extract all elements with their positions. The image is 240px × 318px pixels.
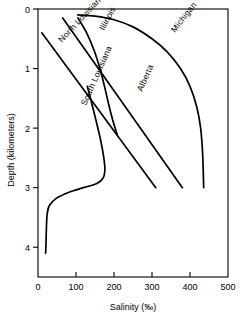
salinity-depth-figure: 0100200300400500 01234 MichiganIllinoisA… [0,0,240,318]
y-tick-label: 2 [25,124,30,134]
stray-ink-mark: ‘ [8,183,10,192]
x-axis-title: Salinity (‰) [110,302,157,312]
series-label-michigan: Michigan [169,0,199,34]
y-tick-label: 0 [25,5,30,15]
y-axis-ticks: 01234 [25,5,38,253]
x-tick-label: 300 [144,282,159,292]
series-line-south-louisiana [46,86,105,253]
series-label-alberta: Alberta [135,63,156,93]
x-tick-label: 400 [182,282,197,292]
series-labels-group: MichiganIllinoisAlbertaNorth LouisianaSo… [56,0,198,107]
y-tick-label: 4 [25,243,30,253]
x-tick-label: 500 [220,282,235,292]
series-line-michigan [78,15,204,188]
x-axis-ticks: 0100200300400500 [35,272,235,292]
data-series-group [42,15,204,253]
x-tick-label: 200 [106,282,121,292]
x-tick-label: 100 [68,282,83,292]
y-axis-title: Depth (kilometers) [6,113,16,187]
chart-canvas: 0100200300400500 01234 MichiganIllinoisA… [0,0,240,318]
series-label-south-louisiana: South Louisiana [79,44,114,107]
y-tick-label: 3 [25,183,30,193]
x-tick-label: 0 [35,282,40,292]
y-tick-label: 1 [25,64,30,74]
plot-frame [38,9,228,277]
